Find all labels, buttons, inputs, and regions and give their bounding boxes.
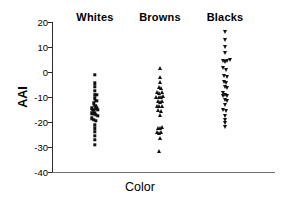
data-point-browns: [160, 99, 164, 103]
group-header-whites: Whites: [76, 11, 113, 23]
data-point-browns: [161, 94, 165, 98]
data-point-blacks: [223, 103, 227, 107]
y-axis-tick: [48, 72, 52, 73]
data-point-blacks: [225, 75, 229, 79]
y-axis-tick-label: -30: [16, 142, 48, 153]
scatter-plot: Whites Browns Blacks 20100-10-20-30-40 A…: [0, 0, 283, 199]
data-point-browns: [158, 80, 162, 84]
y-axis-tick: [48, 147, 52, 148]
data-point-browns: [158, 66, 162, 70]
data-point-blacks: [228, 58, 232, 62]
data-point-browns: [158, 136, 162, 140]
data-point-browns: [158, 75, 162, 79]
y-axis-tick-label: 20: [16, 17, 48, 28]
y-axis-tick: [48, 122, 52, 123]
data-point-whites: [93, 138, 96, 141]
data-point-whites: [93, 73, 96, 76]
y-axis-line: [52, 22, 53, 172]
x-axis-label: Color: [20, 180, 260, 194]
data-point-blacks: [223, 38, 227, 42]
data-point-blacks: [223, 125, 227, 129]
data-point-blacks: [224, 68, 228, 72]
y-axis-tick: [48, 47, 52, 48]
y-axis-tick: [48, 172, 52, 173]
y-axis-label: AAI: [16, 67, 30, 127]
data-point-blacks: [225, 86, 229, 90]
data-point-blacks: [223, 45, 227, 49]
data-point-browns: [159, 130, 163, 134]
y-axis-tick: [48, 22, 52, 23]
data-point-blacks: [224, 109, 228, 113]
group-header-browns: Browns: [139, 11, 181, 23]
y-axis-tick-label: 10: [16, 42, 48, 53]
x-axis-line: [52, 172, 275, 173]
data-point-browns: [157, 149, 161, 153]
data-point-whites: [96, 108, 99, 111]
data-point-whites: [93, 143, 96, 146]
data-point-whites: [96, 114, 99, 117]
data-point-blacks: [223, 51, 227, 55]
group-header-blacks: Blacks: [207, 11, 244, 23]
y-axis-tick: [48, 97, 52, 98]
data-point-blacks: [223, 30, 227, 34]
data-point-browns: [158, 113, 162, 117]
data-point-browns: [160, 125, 164, 129]
y-axis-tick-label: -40: [16, 167, 48, 178]
